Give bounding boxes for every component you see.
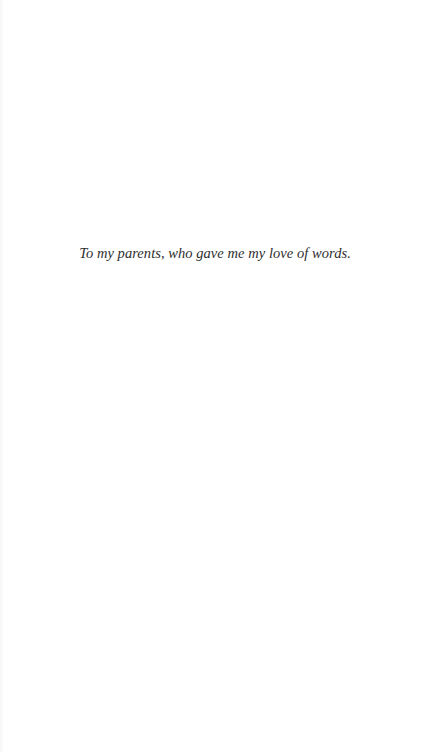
book-page: To my parents, who gave me my love of wo… [0,0,435,752]
page-edge-shadow [0,0,4,752]
dedication-text: To my parents, who gave me my love of wo… [0,243,430,263]
